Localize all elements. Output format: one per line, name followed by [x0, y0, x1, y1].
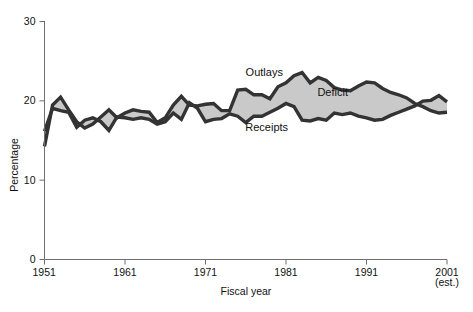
plot-area [45, 73, 448, 147]
deficit-fill-area [45, 73, 448, 147]
series-label-receipts: Receipts [245, 121, 288, 133]
budget-line-chart: 0102030 Percentage 195119611971198119912… [0, 0, 473, 312]
x-axis-title: Fiscal year [221, 285, 272, 297]
y-tick-label: 0 [30, 253, 36, 265]
x-tick-group: 195119611971198119912001 [33, 260, 459, 279]
y-axis-title: Percentage [8, 138, 20, 192]
series-label-deficit: Deficit [317, 86, 348, 98]
chart-container: 0102030 Percentage 195119611971198119912… [0, 0, 473, 312]
x-axis-est-note: (est.) [435, 276, 459, 288]
x-axis: 195119611971198119912001 Fiscal year (es… [33, 260, 459, 298]
x-tick-label: 1971 [194, 266, 218, 278]
series-label-outlays: Outlays [246, 66, 284, 78]
y-axis: 0102030 Percentage [8, 15, 45, 265]
y-tick-label: 20 [24, 94, 36, 106]
x-tick-label: 1961 [113, 266, 137, 278]
y-tick-group: 0102030 [24, 15, 45, 265]
x-tick-label: 1991 [355, 266, 379, 278]
x-tick-label: 1981 [274, 266, 298, 278]
y-tick-label: 10 [24, 174, 36, 186]
y-tick-label: 30 [24, 15, 36, 27]
x-tick-label: 1951 [33, 266, 57, 278]
